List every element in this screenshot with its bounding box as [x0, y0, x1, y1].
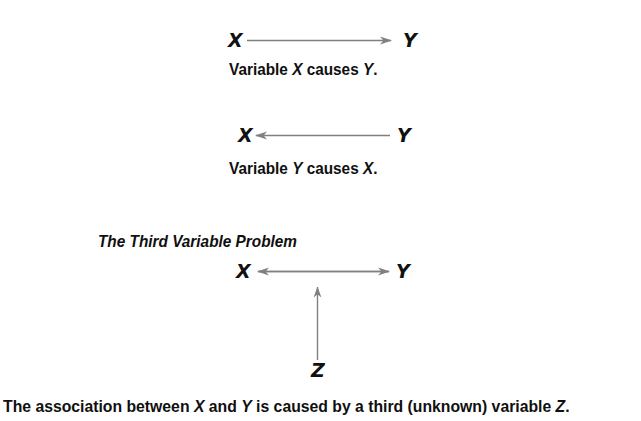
node-x-panel2: X [238, 126, 253, 145]
caption-part: causes [302, 60, 363, 78]
figure-canvas: Y --> Y --> X Y Variable X causes Y. X Y… [0, 0, 641, 421]
bottom-caption-var-z: Z [556, 397, 566, 415]
bottom-caption: The association between X and Y is cause… [3, 398, 570, 415]
caption-var: Y [363, 60, 373, 78]
caption-part: . [373, 60, 377, 78]
caption-part: Variable [229, 60, 292, 78]
caption-y-causes-x: Variable Y causes X. [229, 160, 377, 177]
caption-var: X [292, 60, 302, 78]
bottom-caption-var-y: Y [241, 397, 252, 415]
bottom-caption-part: . [565, 397, 569, 415]
caption-part: Variable [229, 159, 292, 177]
bottom-caption-part: and [204, 397, 241, 415]
section-title-third-variable-problem: The Third Variable Problem [98, 233, 297, 250]
node-x-panel1: X [228, 31, 243, 50]
node-z-panel3: Z [311, 361, 325, 380]
node-y-panel3: Y [396, 262, 410, 281]
caption-var: X [363, 159, 373, 177]
bottom-caption-part: is caused by a third (unknown) variable [252, 397, 556, 415]
caption-part: causes [302, 159, 363, 177]
caption-part: . [373, 159, 377, 177]
caption-x-causes-y: Variable X causes Y. [229, 61, 377, 78]
caption-var: Y [292, 159, 302, 177]
node-y-panel1: Y [403, 31, 417, 50]
bottom-caption-var-x: X [194, 397, 205, 415]
node-y-panel2: Y [397, 126, 411, 145]
node-x-panel3: X [236, 262, 251, 281]
bottom-caption-part: The association between [3, 397, 194, 415]
